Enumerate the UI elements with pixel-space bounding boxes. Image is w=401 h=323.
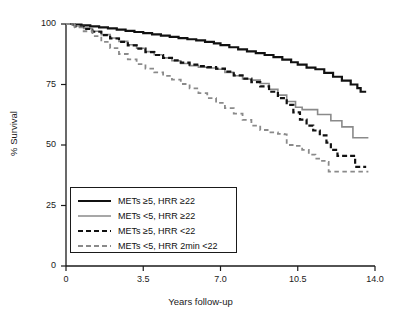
legend-swatch-3 [78, 226, 111, 236]
legend-swatch-1 [78, 196, 111, 206]
y-tick-label: 50 [26, 139, 56, 149]
legend-label-2: METs <5, HRR ≥22 [118, 211, 195, 221]
legend-label-4: METs <5, HRR 2min <22 [118, 241, 218, 251]
legend-item-2: METs <5, HRR ≥22 [78, 208, 195, 224]
chart-legend: METs ≥5, HRR ≥22METs <5, HRR ≥22METs ≥5,… [70, 187, 237, 253]
legend-item-4: METs <5, HRR 2min <22 [78, 238, 218, 254]
survival-chart: % Survival Years follow-up 0255075100 03… [0, 0, 401, 323]
y-axis-label: % Survival [8, 99, 19, 169]
legend-item-3: METs ≥5, HRR <22 [78, 223, 195, 239]
ytick-marks [61, 24, 66, 266]
y-tick-label: 75 [26, 79, 56, 89]
x-tick-label: 0 [46, 274, 86, 284]
y-tick-label: 0 [26, 260, 56, 270]
series-lines [66, 24, 368, 172]
legend-label-1: METs ≥5, HRR ≥22 [118, 196, 195, 206]
legend-swatch-2 [78, 211, 111, 221]
x-tick-label: 7.0 [201, 274, 241, 284]
series-line-2 [66, 24, 368, 138]
legend-label-3: METs ≥5, HRR <22 [118, 226, 195, 236]
y-tick-label: 25 [26, 200, 56, 210]
legend-swatch-4 [78, 241, 111, 251]
legend-item-1: METs ≥5, HRR ≥22 [78, 193, 195, 209]
x-tick-label: 14.0 [355, 274, 395, 284]
x-tick-label: 3.5 [123, 274, 163, 284]
x-axis-label: Years follow-up [0, 296, 401, 307]
xtick-marks [66, 266, 375, 271]
series-line-1 [66, 24, 366, 92]
y-tick-label: 100 [26, 18, 56, 28]
series-line-4 [66, 24, 368, 172]
x-tick-label: 10.5 [278, 274, 318, 284]
